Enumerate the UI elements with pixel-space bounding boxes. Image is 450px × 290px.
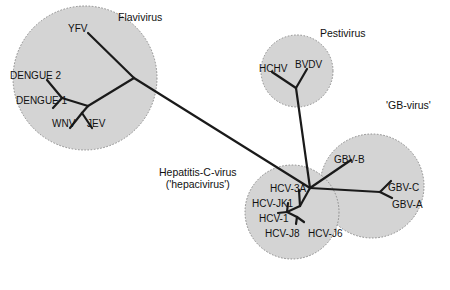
cluster-shapes: [13, 6, 424, 259]
group-label-hepacivirus: Hepatitis-C-virus ('hepacivirus'): [159, 166, 237, 190]
group-label-gb-virus: 'GB-virus': [386, 100, 431, 111]
group-label-hepacivirus-line2: ('hepacivirus'): [159, 178, 237, 190]
taxon-label-dengue-1: DENGUE 1: [16, 96, 67, 106]
group-label-hepacivirus-line1: Hepatitis-C-virus: [159, 166, 237, 178]
tree-canvas: [0, 0, 450, 290]
taxon-label-hcv-1: HCV-1: [259, 214, 288, 224]
group-label-flavivirus: Flavivirus: [118, 12, 162, 23]
taxon-label-jev: JEV: [87, 119, 105, 129]
taxon-label-dengue-2: DENGUE 2: [10, 71, 61, 81]
taxon-label-gbv-b: GBV-B: [334, 155, 365, 165]
group-label-pestivirus: Pestivirus: [320, 28, 366, 39]
taxon-label-yfv: YFV: [68, 24, 87, 34]
taxon-label-wnv: WNV: [52, 119, 75, 129]
taxon-label-bvdv: BVDV: [295, 60, 322, 70]
taxon-label-hcv-j6: HCV-J6: [308, 229, 342, 239]
taxon-label-hcv-3a: HCV-3A: [270, 184, 306, 194]
taxon-label-hchv: HCHV: [259, 64, 287, 74]
taxon-label-gbv-c: GBV-C: [388, 183, 419, 193]
taxon-label-hcv-jk1: HCV-JK1: [252, 199, 293, 209]
taxon-label-gbv-a: GBV-A: [392, 200, 423, 210]
phylogenetic-tree-figure: Flavivirus Pestivirus 'GB-virus' Hepatit…: [0, 0, 450, 290]
taxon-label-hcv-j8: HCV-J8: [265, 229, 299, 239]
